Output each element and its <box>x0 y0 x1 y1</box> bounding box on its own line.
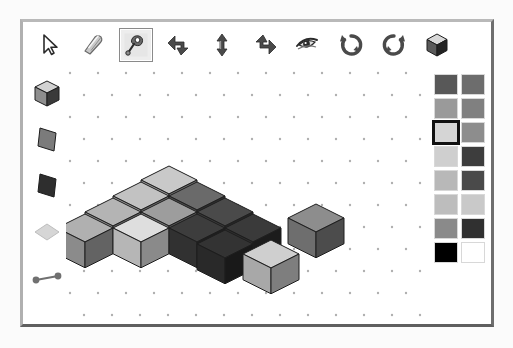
tool-view-eye[interactable] <box>291 28 325 62</box>
main-toolbar <box>23 22 491 69</box>
cube-icon <box>424 32 450 58</box>
line-segment-icon <box>30 261 64 295</box>
tool-move-down-left[interactable] <box>162 28 196 62</box>
tool-eraser[interactable] <box>76 28 110 62</box>
rotate-ccw-icon <box>381 32 407 58</box>
tool-move-vertical[interactable] <box>205 28 239 62</box>
color-swatch[interactable] <box>434 98 458 119</box>
color-swatch[interactable] <box>461 194 485 215</box>
eye-icon <box>295 32 321 58</box>
eraser-icon <box>80 32 106 58</box>
color-swatch[interactable] <box>434 146 458 167</box>
tool-rotate-vertical[interactable] <box>377 28 411 62</box>
tool-select-arrow[interactable] <box>33 28 67 62</box>
color-swatch[interactable] <box>461 242 485 263</box>
shape-plane-dark[interactable] <box>27 166 67 206</box>
shape-edge-line[interactable] <box>27 258 67 298</box>
color-swatch[interactable] <box>461 170 485 191</box>
tool-paint-spray[interactable] <box>119 28 153 62</box>
cube-shape-icon <box>30 77 64 111</box>
color-swatch[interactable] <box>434 218 458 239</box>
window-frame <box>20 19 494 327</box>
color-swatch[interactable] <box>461 98 485 119</box>
rotate-cw-icon <box>338 32 364 58</box>
color-swatch[interactable] <box>434 242 458 263</box>
color-swatch[interactable] <box>461 74 485 95</box>
cube-structure[interactable] <box>66 69 429 318</box>
cursor-arrow-icon <box>37 32 63 58</box>
color-swatch[interactable] <box>461 122 485 143</box>
color-palette <box>434 74 486 263</box>
shape-plane-gray[interactable] <box>27 120 67 160</box>
plane-shape-icon <box>30 169 64 203</box>
arrow-bend-right-icon <box>252 32 278 58</box>
tool-rotate-horizontal[interactable] <box>334 28 368 62</box>
diamond-shape-icon <box>30 215 64 249</box>
color-swatch[interactable] <box>434 74 458 95</box>
color-swatch[interactable] <box>461 218 485 239</box>
application-window <box>0 0 513 348</box>
color-swatch[interactable] <box>434 194 458 215</box>
shape-cube-shape[interactable] <box>27 74 67 114</box>
arrow-bend-left-icon <box>166 32 192 58</box>
color-swatch[interactable] <box>434 170 458 191</box>
tool-cube-render[interactable] <box>420 28 454 62</box>
cube[interactable] <box>288 204 344 258</box>
color-swatch[interactable] <box>434 122 458 143</box>
shape-diamond-shape[interactable] <box>27 212 67 252</box>
color-swatch[interactable] <box>461 146 485 167</box>
drawing-canvas[interactable] <box>66 69 429 318</box>
shape-palette <box>27 74 67 304</box>
paint-spray-icon <box>123 32 149 58</box>
plane-shape-icon <box>30 123 64 157</box>
tool-move-down-right[interactable] <box>248 28 282 62</box>
arrow-up-down-icon <box>209 32 235 58</box>
window-content <box>23 22 491 324</box>
